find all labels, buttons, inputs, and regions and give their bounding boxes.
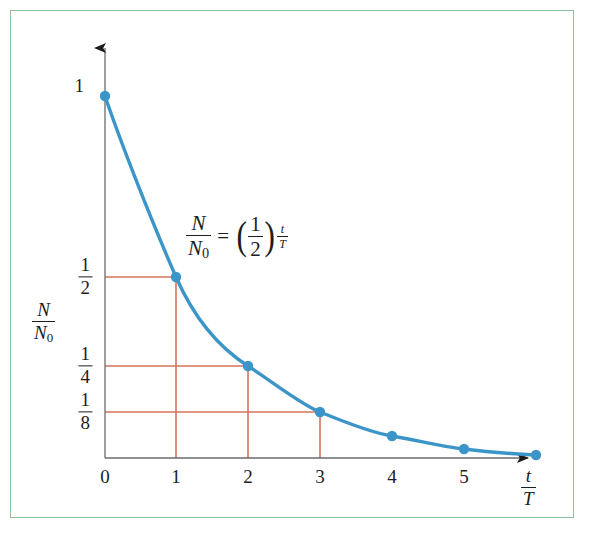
data-point-5 (459, 444, 469, 454)
fraction-numerator: 1 (79, 255, 93, 276)
formula-exponent-numerator: t (277, 223, 288, 237)
y-tick-label-eighth: 1 8 (79, 390, 93, 433)
x-tick-label-3: 3 (315, 466, 325, 488)
decay-curve-group (100, 91, 541, 460)
x-tick-label-0: 0 (100, 466, 110, 488)
formula-lhs-numerator: N (186, 212, 211, 235)
data-point-2 (243, 361, 253, 371)
formula-lhs-denominator: N0 (186, 235, 211, 261)
y-axis-title-den-subscript: 0 (47, 330, 53, 345)
exponential-decay-curve (105, 96, 536, 455)
x-tick-label-5: 5 (459, 466, 469, 488)
formula-exponent-fraction: t T (277, 223, 288, 251)
y-tick-label-1: 1 (75, 75, 85, 97)
x-tick-label-1: 1 (171, 466, 181, 488)
x-axis-title-numerator: t (521, 466, 536, 487)
x-axis-title: t T (521, 466, 536, 509)
fraction-numerator: 1 (79, 344, 93, 365)
fraction-denominator: 8 (79, 412, 93, 434)
decay-formula-annotation: N N0 = ( 1 2 ) t T (186, 212, 288, 262)
data-point-1 (171, 272, 181, 282)
formula-base-numerator: 1 (248, 213, 263, 236)
formula-paren-close: ) (264, 224, 274, 249)
y-axis-title-numerator: N (32, 300, 55, 321)
axes-group (105, 48, 528, 458)
x-axis-title-denominator: T (521, 487, 536, 509)
formula-base-denominator: 2 (248, 236, 263, 260)
fraction-denominator: 4 (79, 366, 93, 388)
formula-exponent: t T (277, 223, 288, 251)
y-axis-title: N N0 (32, 300, 55, 345)
x-axis-title-fraction: t T (521, 466, 536, 509)
fraction-one-quarter: 1 4 (79, 344, 93, 387)
y-axis-title-den-symbol: N (34, 322, 47, 343)
y-axis-title-denominator: N0 (32, 321, 55, 345)
formula-lhs-fraction: N N0 (186, 212, 211, 262)
y-tick-value-1: 1 (75, 75, 85, 96)
data-point-0 (100, 91, 110, 101)
figure-root: 1 1 2 1 4 1 8 N N0 0 1 2 3 4 5 t T (0, 0, 593, 540)
y-tick-label-quarter: 1 4 (79, 344, 93, 387)
x-tick-label-4: 4 (387, 466, 397, 488)
formula-lhs-den-subscript: 0 (202, 245, 209, 261)
formula-lhs-den-symbol: N (188, 236, 202, 260)
formula-base-fraction: 1 2 (248, 213, 263, 261)
data-point-4 (387, 431, 397, 441)
y-axis-title-fraction: N N0 (32, 300, 55, 345)
fraction-one-eighth: 1 8 (79, 390, 93, 433)
formula-equals-sign: = (217, 224, 229, 249)
x-tick-label-2: 2 (243, 466, 253, 488)
formula-paren-open: ( (236, 224, 246, 249)
fraction-numerator: 1 (79, 390, 93, 411)
fraction-one-half: 1 2 (79, 255, 93, 298)
fraction-denominator: 2 (79, 277, 93, 299)
data-point-3 (315, 407, 325, 417)
y-tick-label-half: 1 2 (79, 255, 93, 298)
formula-exponent-denominator: T (277, 236, 288, 251)
data-point-6 (531, 450, 541, 460)
guide-lines-group (105, 277, 320, 458)
